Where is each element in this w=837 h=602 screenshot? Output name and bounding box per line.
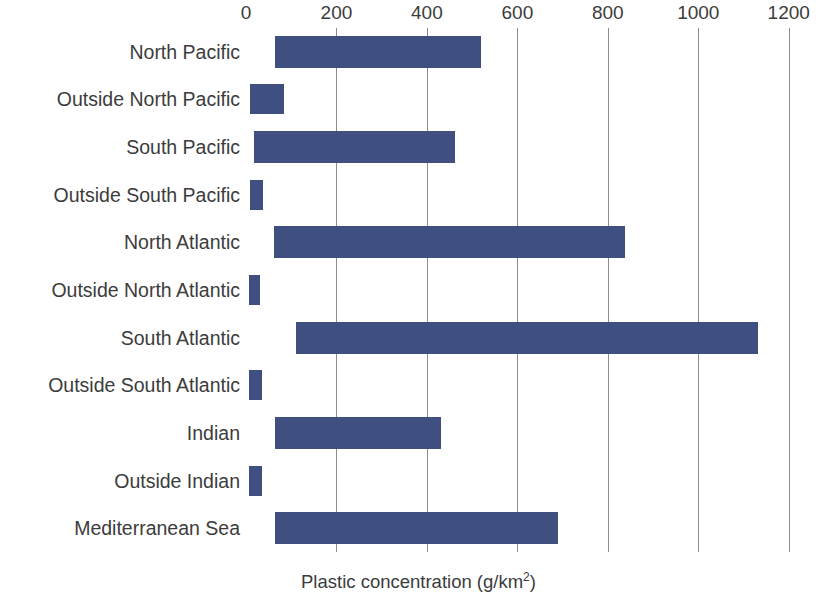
bar <box>275 36 481 68</box>
bar-row <box>246 266 791 314</box>
y-axis-category-label: Outside South Atlantic <box>0 374 240 397</box>
bar-row <box>246 219 791 267</box>
x-axis-title: Plastic concentration (g/km2) <box>0 570 837 593</box>
bar <box>249 275 261 305</box>
bar-row <box>246 409 791 457</box>
bar-row <box>246 123 791 171</box>
x-axis-title-suffix: ) <box>530 571 536 592</box>
y-axis-category-label: Outside North Pacific <box>0 88 240 111</box>
y-axis-category-labels: North PacificOutside North PacificSouth … <box>0 28 240 552</box>
y-axis-category-label: Mediterranean Sea <box>0 517 240 540</box>
bar-row <box>246 314 791 362</box>
x-axis-title-text: Plastic concentration (g/km <box>301 571 523 592</box>
bar-row <box>246 457 791 505</box>
bar-row <box>246 28 791 76</box>
y-axis-category-label: South Pacific <box>0 136 240 159</box>
bar <box>275 512 558 544</box>
x-axis-tick-label: 200 <box>321 2 353 24</box>
y-axis-category-label: North Atlantic <box>0 231 240 254</box>
bar <box>250 180 264 210</box>
bar <box>296 322 758 354</box>
y-axis-category-label: Indian <box>0 421 240 444</box>
bar <box>249 370 263 400</box>
y-axis-category-label: Outside South Pacific <box>0 183 240 206</box>
plastic-concentration-chart: 020040060080010001200 North PacificOutsi… <box>0 0 837 602</box>
x-axis-tick-label: 400 <box>411 2 443 24</box>
bar <box>254 131 455 163</box>
x-axis-tick-label: 1200 <box>768 2 810 24</box>
x-axis-title-superscript: 2 <box>523 570 530 584</box>
bar-row <box>246 76 791 124</box>
y-axis-category-label: North Pacific <box>0 40 240 63</box>
y-axis-category-label: Outside North Atlantic <box>0 279 240 302</box>
bar-row <box>246 361 791 409</box>
bar <box>275 417 441 449</box>
plot-area <box>246 28 791 552</box>
bar <box>274 226 625 258</box>
x-axis-tick-labels: 020040060080010001200 <box>0 0 837 28</box>
x-axis-tick-label: 800 <box>592 2 624 24</box>
bar <box>249 466 262 496</box>
y-axis-category-label: South Atlantic <box>0 326 240 349</box>
y-axis-category-label: Outside Indian <box>0 469 240 492</box>
bar-row <box>246 504 791 552</box>
x-axis-tick-label: 0 <box>241 2 252 24</box>
bar-row <box>246 171 791 219</box>
bar <box>250 84 285 114</box>
x-axis-tick-label: 600 <box>502 2 534 24</box>
x-axis-tick-label: 1000 <box>677 2 719 24</box>
